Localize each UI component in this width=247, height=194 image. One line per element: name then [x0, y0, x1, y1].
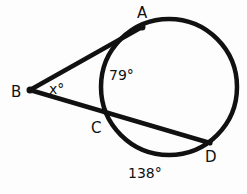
label-C: C [91, 119, 101, 137]
angle-label-x: x° [49, 81, 64, 97]
diagram-canvas: A B C D x° 79° 138° [0, 0, 247, 194]
point-C-dot [103, 110, 108, 115]
point-B-dot [27, 87, 34, 94]
point-D-dot [208, 141, 213, 146]
arc-label-AC: 79° [109, 67, 134, 83]
point-A-dot [139, 24, 146, 31]
label-B: B [11, 83, 21, 101]
arc-label-AD: 138° [128, 165, 162, 181]
label-D: D [205, 148, 217, 166]
label-A: A [137, 4, 148, 22]
